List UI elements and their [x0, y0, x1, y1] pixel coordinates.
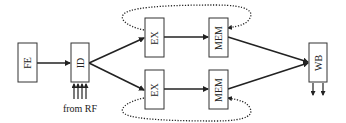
edge-id-ex-bottom [89, 63, 144, 90]
stage-mem-bottom-label: MEM [213, 78, 224, 102]
edge-id-ex-top [89, 38, 144, 63]
stage-ex-bottom: EX [145, 70, 164, 109]
register-file-inputs [74, 84, 86, 99]
edge-mem-wb-bottom [228, 63, 308, 89]
stage-fe: FE [18, 43, 37, 82]
stage-wb: WB [309, 43, 327, 82]
stage-mem-bottom: MEM [209, 70, 228, 109]
stage-wb-label: WB [313, 55, 324, 71]
bypass-loop-bottom [122, 98, 251, 121]
stage-fe-label: FE [22, 57, 33, 69]
stage-id: ID [71, 43, 89, 82]
stage-ex-bottom-label: EX [149, 83, 160, 97]
stage-id-label: ID [75, 58, 86, 69]
stage-mem-top-label: MEM [213, 26, 224, 50]
stage-ex-top: EX [145, 18, 164, 57]
bypass-loop-top [122, 5, 251, 30]
writeback-outputs [313, 83, 323, 95]
from-rf-caption: from RF [63, 103, 98, 114]
stage-mem-top: MEM [209, 18, 228, 57]
pipeline-diagram: FE ID EX MEM EX MEM WB from RF [0, 0, 346, 123]
edge-mem-wb-top [228, 37, 308, 62]
stage-ex-top-label: EX [149, 31, 160, 45]
